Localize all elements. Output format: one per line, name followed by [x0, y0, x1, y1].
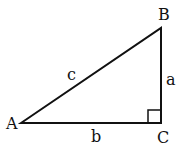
side-label-a: a [166, 70, 176, 89]
side-label-b: b [91, 127, 101, 146]
vertex-label-a: A [5, 114, 18, 133]
right-angle-marker [148, 110, 161, 123]
triangle [21, 28, 161, 123]
triangle-diagram: B A C a b c [0, 0, 184, 149]
vertex-label-c: C [157, 128, 169, 147]
side-label-c: c [67, 65, 76, 84]
vertex-label-b: B [158, 5, 170, 24]
